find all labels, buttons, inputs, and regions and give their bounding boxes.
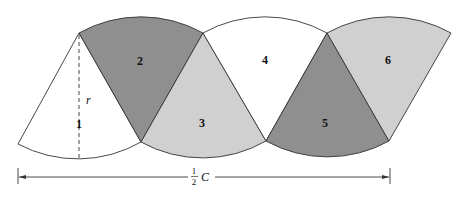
sector-label-4: 4 [262,53,268,67]
fraction-numerator: 1 [192,166,197,176]
arrow-right-icon [382,175,389,179]
sector-label-2: 2 [137,54,143,68]
diagram-canvas: r 1 2 3 4 5 6 1 2 C [0,0,468,200]
circumference-symbol: C [201,170,210,184]
arrow-left-icon [19,175,26,179]
sector-label-6: 6 [385,53,391,67]
radius-label: r [86,93,91,107]
sector-label-1: 1 [76,117,82,131]
sector-label-5: 5 [322,116,328,130]
fraction-denominator: 2 [192,177,197,187]
sector-label-3: 3 [199,116,205,130]
sector-strip-diagram: r 1 2 3 4 5 6 1 2 C [0,0,468,200]
